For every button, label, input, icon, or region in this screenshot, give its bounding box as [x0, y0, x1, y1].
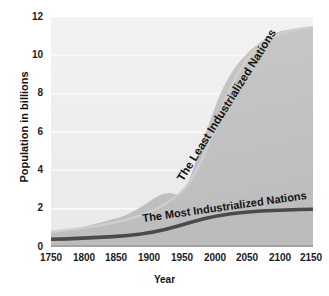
x-tick-1850: 1850 [105, 252, 127, 263]
x-tick-1950: 1950 [171, 252, 193, 263]
x-axis-tick-labels: 1750 1800 1850 1900 1950 2000 2050 2100 … [0, 252, 329, 268]
y-tick-2: 2 [37, 202, 43, 213]
x-tick-1900: 1900 [138, 252, 160, 263]
x-tick-2150: 2150 [300, 252, 322, 263]
population-area-chart: 12 10 8 6 4 2 0 Population in billions [0, 0, 329, 296]
cropped-title-remnant [0, 0, 329, 6]
x-tick-2050: 2050 [236, 252, 258, 263]
y-tick-0: 0 [37, 241, 43, 252]
y-tick-8: 8 [37, 87, 43, 98]
y-tick-10: 10 [32, 49, 43, 60]
chart-canvas: The Least Industrialized Nations The Mos… [51, 17, 313, 247]
y-tick-12: 12 [32, 11, 43, 22]
plot-area: The Least Industrialized Nations The Mos… [51, 17, 313, 247]
y-axis-title: Population in billions [18, 47, 30, 207]
x-axis-title: Year [0, 274, 329, 285]
x-tick-2000: 2000 [204, 252, 226, 263]
x-tick-2100: 2100 [269, 252, 291, 263]
y-tick-4: 4 [37, 164, 43, 175]
x-tick-1750: 1750 [40, 252, 62, 263]
y-tick-6: 6 [37, 126, 43, 137]
x-tick-1800: 1800 [73, 252, 95, 263]
